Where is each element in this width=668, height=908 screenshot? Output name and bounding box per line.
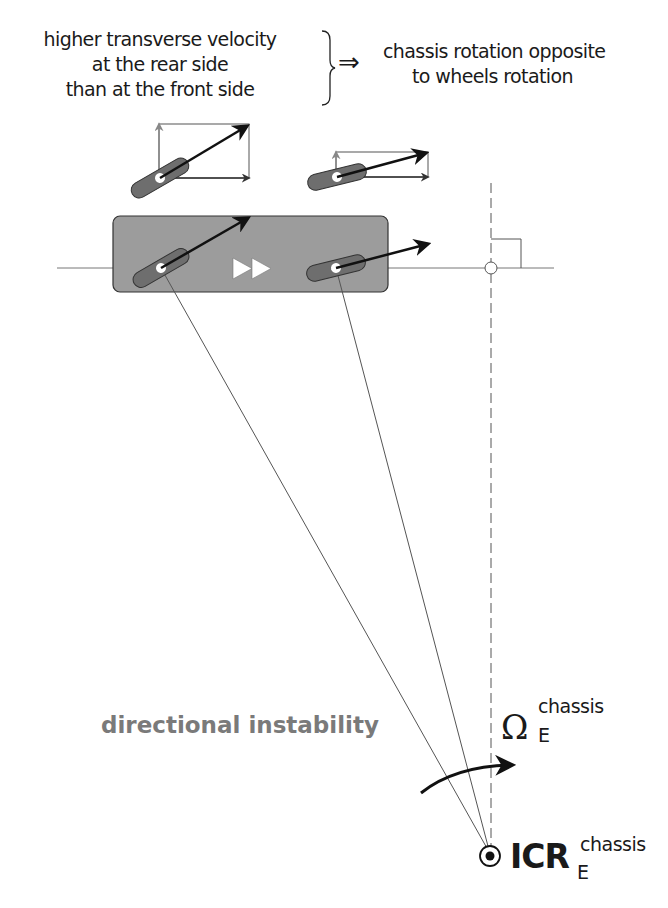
condition-line-2: at the rear side xyxy=(0,53,320,75)
icr-symbol: ICR xyxy=(510,837,569,876)
icr-point-icon xyxy=(480,846,500,866)
rear-wheel-velocity-diagram xyxy=(128,124,249,201)
result-line-1: chassis rotation opposite xyxy=(383,40,605,62)
diagram-canvas: higher transverse velocity at the rear s… xyxy=(0,0,668,908)
implies-arrow-icon: ⇒ xyxy=(338,47,360,77)
condition-line-1: higher transverse velocity xyxy=(0,28,320,50)
condition-line-3: than at the front side xyxy=(0,78,320,100)
directional-instability-label: directional instability xyxy=(101,712,379,738)
icr-subscript: E xyxy=(577,861,589,883)
axis-intersection-point xyxy=(485,262,497,274)
omega-superscript: chassis xyxy=(538,695,604,717)
front-wheel-to-icr-line xyxy=(336,268,489,850)
diagram-graphics xyxy=(0,0,668,908)
result-line-2: to wheels rotation xyxy=(412,65,573,87)
front-wheel-velocity-diagram xyxy=(306,152,428,192)
rear-wheel-to-icr-line xyxy=(161,268,488,850)
omega-symbol: Ω xyxy=(501,708,528,747)
curly-brace xyxy=(322,31,335,105)
rotation-arrow-icon xyxy=(421,765,512,793)
velocity-arrow xyxy=(160,126,247,178)
omega-subscript: E xyxy=(538,724,550,746)
icr-superscript: chassis xyxy=(580,833,646,855)
